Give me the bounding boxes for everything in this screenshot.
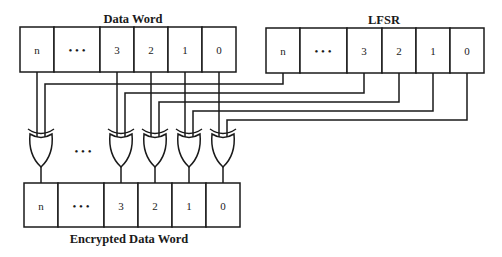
xor-gate-0 bbox=[210, 129, 236, 183]
xor-gate-3 bbox=[108, 129, 134, 183]
wire-lfsr-n bbox=[45, 73, 283, 138]
lfsr-title: LFSR bbox=[368, 13, 401, 27]
xor-gates: • • • bbox=[28, 129, 236, 183]
encrypted-bit-label: 1 bbox=[186, 200, 192, 212]
wire-lfsr-3 bbox=[125, 73, 364, 138]
encrypted-word-title: Encrypted Data Word bbox=[70, 232, 189, 246]
lfsr-register: LFSR n • • • 3 2 1 0 bbox=[266, 13, 484, 73]
lfsr-bit-label: • • • bbox=[314, 45, 331, 57]
data-word-bit-label: 0 bbox=[216, 44, 222, 56]
data-word-bit-label: 1 bbox=[182, 44, 188, 56]
data-word-title: Data Word bbox=[103, 12, 162, 26]
lfsr-bit-label: 3 bbox=[361, 45, 367, 57]
lfsr-bit-label: 0 bbox=[464, 45, 470, 57]
xor-encryption-diagram: Data Word n • • • 3 2 1 0 LFSR n • • • 3… bbox=[0, 0, 502, 257]
xor-gate-1 bbox=[176, 129, 202, 183]
xor-gate-2 bbox=[142, 129, 168, 183]
wire-lfsr-1 bbox=[193, 73, 433, 138]
wire-lfsr-2 bbox=[159, 73, 399, 138]
data-word-register: Data Word n • • • 3 2 1 0 bbox=[20, 12, 236, 72]
encrypted-bit-label: 2 bbox=[152, 200, 158, 212]
encrypted-bit-label: 3 bbox=[118, 200, 124, 212]
encrypted-bit-label: n bbox=[38, 200, 44, 212]
lfsr-bit-label: 2 bbox=[396, 45, 402, 57]
encrypted-word-register: n • • • 3 2 1 0 Encrypted Data Word bbox=[24, 183, 240, 246]
data-word-bit-label: 3 bbox=[114, 44, 120, 56]
xor-gate-n bbox=[28, 129, 54, 183]
data-word-bit-label: 2 bbox=[148, 44, 154, 56]
data-word-bit-label: • • • bbox=[68, 44, 85, 56]
encrypted-bit-label: • • • bbox=[72, 200, 89, 212]
data-word-bit-label: n bbox=[34, 44, 40, 56]
encrypted-bit-label: 0 bbox=[220, 200, 226, 212]
lfsr-bit-label: 1 bbox=[430, 45, 436, 57]
data-word-wires bbox=[37, 72, 219, 138]
lfsr-wires bbox=[45, 73, 467, 138]
wire-lfsr-0 bbox=[227, 73, 467, 138]
lfsr-bit-label: n bbox=[280, 45, 286, 57]
gates-ellipsis: • • • bbox=[74, 145, 91, 157]
